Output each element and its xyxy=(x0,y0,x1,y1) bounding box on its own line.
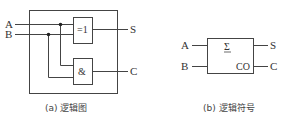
input-label-b: B xyxy=(5,28,12,40)
symbol-input-label-b: B xyxy=(181,60,188,72)
xor-gate-label: =1 xyxy=(77,24,88,35)
wire-a-branch xyxy=(61,25,74,66)
carry-out-pin-label: CO xyxy=(236,61,250,72)
junction-dot-b xyxy=(47,33,51,37)
and-gate-label: & xyxy=(78,66,86,77)
half-adder-figure: A B =1 & S C (a) 逻辑图 A B Σ CO S C (b) 逻辑… xyxy=(0,0,287,120)
symbol-output-label-c: C xyxy=(270,60,277,72)
caption-logic-symbol: (b) 逻辑符号 xyxy=(203,102,255,113)
symbol-input-label-a: A xyxy=(181,39,189,51)
output-label-s: S xyxy=(130,23,136,35)
sum-symbol: Σ xyxy=(224,41,230,52)
caption-logic-diagram: (a) 逻辑图 xyxy=(45,102,87,113)
junction-dot-a xyxy=(59,23,63,27)
output-label-c: C xyxy=(130,65,137,77)
symbol-output-label-s: S xyxy=(270,39,276,51)
